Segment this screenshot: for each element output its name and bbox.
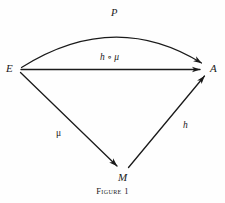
edge-line-mu — [21, 73, 118, 167]
edge-label-P: P — [111, 8, 117, 19]
node-label-A: A — [210, 63, 217, 74]
edge-label-mu: μ — [56, 129, 61, 139]
edge-line-h — [129, 76, 205, 168]
figure-caption: Figure 1 — [0, 186, 225, 196]
commutative-diagram — [0, 0, 225, 203]
edge-label-h-compose-mu: h ∘ μ — [100, 53, 119, 63]
figure-container: E A M P h ∘ μ μ h Figure 1 — [0, 0, 225, 203]
node-label-E: E — [6, 63, 13, 74]
node-label-M: M — [118, 172, 127, 183]
edge-label-h: h — [183, 121, 188, 131]
